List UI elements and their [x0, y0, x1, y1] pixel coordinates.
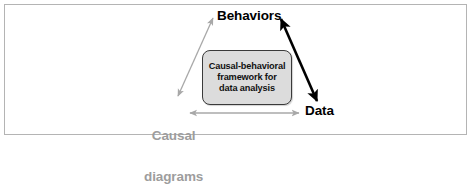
causal-diagrams-line-1: Causal — [144, 129, 203, 142]
node-label-data: Data — [305, 104, 334, 118]
framework-box-line-1: Causal-behavioral — [209, 61, 286, 72]
framework-box-line-3: data analysis — [219, 83, 275, 94]
framework-box-line-2: framework for — [217, 72, 276, 83]
framework-box: Causal-behavioral framework for data ana… — [202, 50, 292, 105]
diagram-canvas: Behaviors Data Causal diagrams Causal-be… — [0, 0, 473, 142]
node-label-behaviors: Behaviors — [217, 9, 281, 23]
node-label-causal-diagrams: Causal diagrams — [144, 101, 203, 142]
